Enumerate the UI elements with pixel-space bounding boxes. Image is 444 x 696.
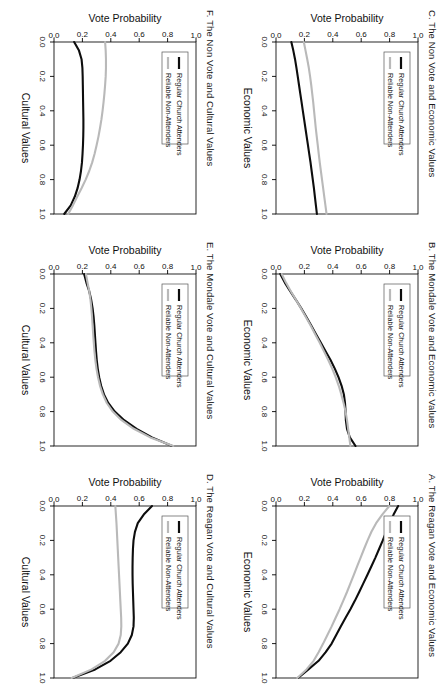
x-tick-label: 0.6 (38, 140, 47, 152)
x-tick-label: 0.2 (38, 71, 47, 83)
plot-E: 0.00.20.40.60.81.00.00.20.40.60.81.0Cult… (0, 232, 222, 464)
x-tick-label: 0.8 (260, 638, 269, 650)
y-tick-label: 1.0 (412, 31, 424, 40)
y-tick-label: 1.0 (412, 263, 424, 272)
plot-svg-C: 0.00.20.40.60.81.00.00.20.40.60.81.0Econ… (222, 0, 444, 232)
x-tick-label: 0.6 (38, 372, 47, 384)
panel-B: B. The Mondale Vote and Economic Values … (222, 232, 444, 464)
figure-root: C. The Non Vote and Economic Values 0.00… (0, 0, 444, 696)
legend-label-2: Reliable Non-Attenders (386, 537, 395, 612)
y-tick-label: 0.4 (327, 495, 339, 504)
y-axis-label: Vote Probability (311, 244, 385, 256)
x-tick-label: 0.4 (260, 569, 269, 581)
y-tick-label: 1.0 (190, 495, 202, 504)
x-tick-label: 0.6 (38, 604, 47, 616)
x-tick-label: 0.2 (260, 535, 269, 547)
plot-D: 0.00.20.40.60.81.00.00.20.40.60.81.0Cult… (0, 464, 222, 696)
x-tick-label: 0.8 (38, 638, 47, 650)
series-line-1 (84, 274, 172, 446)
x-tick-label: 0.2 (260, 71, 269, 83)
panel-C: C. The Non Vote and Economic Values 0.00… (222, 0, 444, 232)
x-tick-label: 0.2 (38, 303, 47, 315)
y-tick-label: 0.8 (162, 495, 174, 504)
y-tick-label: 0.0 (270, 31, 282, 40)
y-tick-label: 0.6 (134, 31, 146, 40)
x-tick-label: 0.0 (260, 268, 269, 280)
x-tick-label: 1.0 (38, 672, 47, 684)
legend-label-2: Reliable Non-Attenders (386, 305, 395, 380)
legend-label-1: Regular Church Attenders (175, 537, 184, 620)
y-tick-label: 0.0 (48, 31, 60, 40)
plot-svg-F: 0.00.20.40.60.81.00.00.20.40.60.81.0Cult… (0, 0, 222, 232)
plot-C: 0.00.20.40.60.81.00.00.20.40.60.81.0Econ… (222, 0, 444, 232)
plot-B: 0.00.20.40.60.81.00.00.20.40.60.81.0Econ… (222, 232, 444, 464)
plot-A: 0.00.20.40.60.81.00.00.20.40.60.81.0Econ… (222, 464, 444, 696)
x-tick-label: 0.4 (38, 569, 47, 581)
panel-F: F. The Non Vote and Cultural Values 0.00… (0, 0, 222, 232)
y-tick-label: 0.8 (384, 263, 396, 272)
x-axis-label: Economic Values (242, 320, 254, 400)
x-tick-label: 0.0 (260, 36, 269, 48)
legend-label-1: Regular Church Attenders (175, 73, 184, 156)
y-tick-label: 0.4 (105, 495, 117, 504)
plot-svg-A: 0.00.20.40.60.81.00.00.20.40.60.81.0Econ… (222, 464, 444, 696)
legend-label-2: Reliable Non-Attenders (164, 305, 173, 380)
panel-grid: C. The Non Vote and Economic Values 0.00… (0, 0, 444, 696)
series-line-2 (297, 506, 389, 678)
x-axis-label: Cultural Values (20, 557, 32, 627)
y-tick-label: 0.2 (77, 31, 89, 40)
y-tick-label: 1.0 (412, 495, 424, 504)
x-tick-label: 0.0 (38, 268, 47, 280)
x-tick-label: 0.4 (260, 105, 269, 117)
x-tick-label: 1.0 (38, 208, 47, 220)
x-tick-label: 1.0 (260, 440, 269, 452)
panel-D: D. The Reagan Vote and Cultural Values 0… (0, 464, 222, 696)
series-line-2 (282, 274, 351, 446)
x-axis-label: Cultural Values (20, 325, 32, 395)
y-tick-label: 0.2 (77, 263, 89, 272)
y-axis-label: Vote Probability (89, 244, 163, 256)
y-tick-label: 0.6 (134, 263, 146, 272)
y-tick-label: 0.0 (270, 263, 282, 272)
x-tick-label: 0.4 (260, 337, 269, 349)
x-tick-label: 0.2 (38, 535, 47, 547)
y-tick-label: 0.6 (356, 495, 368, 504)
y-tick-label: 0.0 (48, 495, 60, 504)
x-tick-label: 0.6 (260, 604, 269, 616)
legend-label-2: Reliable Non-Attenders (164, 73, 173, 148)
y-tick-label: 0.2 (299, 495, 311, 504)
x-tick-label: 0.0 (38, 36, 47, 48)
panel-E: E. The Mondale Vote and Cultural Values … (0, 232, 222, 464)
x-tick-label: 0.0 (260, 500, 269, 512)
series-line-2 (68, 42, 106, 214)
x-tick-label: 0.6 (260, 140, 269, 152)
x-tick-label: 1.0 (260, 208, 269, 220)
x-tick-label: 0.8 (260, 174, 269, 186)
series-line-2 (72, 506, 122, 678)
y-axis-label: Vote Probability (311, 12, 385, 24)
x-tick-label: 0.8 (38, 406, 47, 418)
y-tick-label: 0.4 (105, 263, 117, 272)
legend-label-1: Regular Church Attenders (397, 305, 406, 388)
y-tick-label: 0.4 (327, 263, 339, 272)
legend-label-1: Regular Church Attenders (175, 305, 184, 388)
series-line-1 (291, 42, 317, 214)
y-tick-label: 0.2 (77, 495, 89, 504)
plot-svg-D: 0.00.20.40.60.81.00.00.20.40.60.81.0Cult… (0, 464, 222, 696)
panel-A: A. The Reagan Vote and Economic Values 0… (222, 464, 444, 696)
x-tick-label: 1.0 (38, 440, 47, 452)
x-axis-label: Economic Values (242, 88, 254, 168)
x-tick-label: 1.0 (260, 672, 269, 684)
x-axis-label: Economic Values (242, 552, 254, 632)
series-line-2 (86, 274, 173, 446)
legend-label-2: Reliable Non-Attenders (164, 537, 173, 612)
legend-label-1: Regular Church Attenders (397, 537, 406, 620)
x-tick-label: 0.8 (260, 406, 269, 418)
legend-label-1: Regular Church Attenders (397, 73, 406, 156)
y-tick-label: 0.8 (384, 495, 396, 504)
y-tick-label: 0.4 (327, 31, 339, 40)
series-line-2 (304, 42, 327, 214)
y-tick-label: 1.0 (190, 263, 202, 272)
plot-F: 0.00.20.40.60.81.00.00.20.40.60.81.0Cult… (0, 0, 222, 232)
y-tick-label: 0.6 (134, 495, 146, 504)
